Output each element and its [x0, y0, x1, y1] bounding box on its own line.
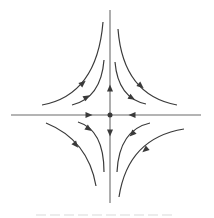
- caption-illegible: [36, 214, 174, 216]
- trajectory-top-right-outer-arrow-icon: [136, 81, 145, 90]
- saddle-point-dot: [108, 113, 113, 118]
- trajectory-bottom-right-outer-arrow-icon: [140, 145, 149, 154]
- arrow-right-on-horizontal-axis-icon: [86, 112, 93, 118]
- equilibrium-point: [108, 113, 113, 118]
- trajectory-bottom-left-outer-arrow-icon: [71, 140, 80, 149]
- trajectory-bottom-right-outer: [119, 129, 184, 197]
- trajectories: [42, 22, 184, 197]
- trajectory-top-left-outer: [42, 22, 103, 105]
- trajectory-top-left-outer-arrow-icon: [78, 78, 87, 87]
- arrow-up-on-vertical-axis-icon: [107, 85, 113, 92]
- trajectory-bottom-left-outer: [46, 123, 96, 186]
- arrow-down-on-vertical-axis-icon: [107, 130, 113, 137]
- trajectory-bottom-left-inner: [78, 122, 104, 172]
- saddle-point-phase-portrait: Saddle point phase portrait: [0, 0, 214, 218]
- trajectory-top-left-inner: [72, 60, 104, 105]
- trajectory-bottom-right-inner-arrow-icon: [127, 129, 136, 138]
- arrow-left-on-horizontal-axis-icon: [129, 112, 136, 118]
- axes: [11, 10, 201, 203]
